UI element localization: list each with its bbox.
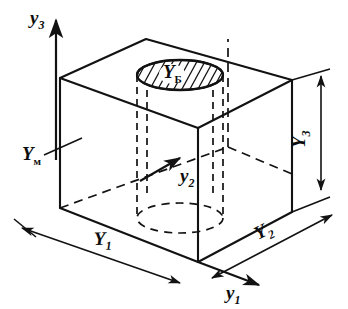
dimension-Y2-line: [212, 215, 332, 278]
axis-label-y1: y1: [224, 282, 240, 307]
callout-label-Ym: Yм: [22, 143, 42, 167]
axis-label-y3: y3: [28, 7, 44, 32]
technical-diagram-svg: y3 y2 y1 Y1 Y2 Y3 Yм YБ: [0, 0, 348, 309]
dimension-Y3-extension-bottom: [292, 197, 330, 212]
diagram-root: y3 y2 y1 Y1 Y2 Y3 Yм YБ: [0, 0, 348, 309]
dimension-Y1-extension-left: [14, 219, 36, 237]
hidden-edge-bottom-right-rear: [228, 147, 292, 174]
axis-label-y2: y2: [178, 165, 194, 190]
cylindrical-bore: [128, 52, 238, 233]
axis-y2-line: [140, 158, 180, 181]
dimension-lines: [14, 69, 332, 283]
dimension-label-Y1: Y1: [94, 228, 112, 253]
dimension-Y3-extension-top: [292, 69, 330, 80]
edge-bottom-front-right: [198, 212, 292, 262]
callout-leaders: [44, 138, 82, 155]
edge-bottom-front-left: [60, 208, 198, 262]
bore-bottom-ellipse: [137, 203, 223, 233]
leader-Ym: [44, 138, 82, 155]
